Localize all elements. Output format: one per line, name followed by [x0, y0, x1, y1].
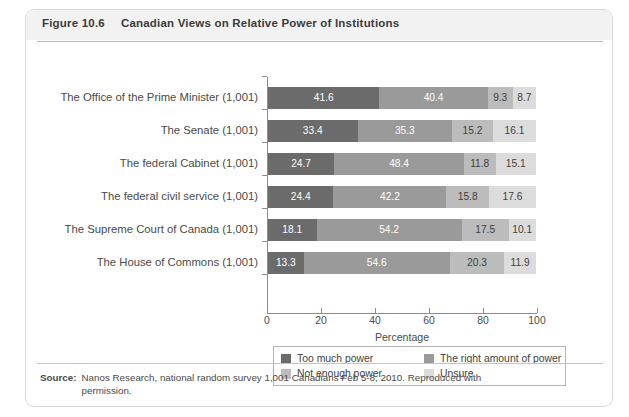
x-axis-tick-label: 60: [423, 315, 435, 326]
stacked-bar: 24.442.215.817.6: [268, 186, 536, 208]
bar-value-label: 17.6: [502, 191, 522, 202]
bar-value-label: 9.3: [493, 92, 507, 103]
source-note: Source: Nanos Research, national random …: [40, 371, 595, 397]
bar-value-label: 15.8: [458, 191, 478, 202]
x-axis-tick: [483, 308, 484, 313]
y-axis-tick: [262, 274, 267, 275]
figure-header: Figure 10.6 Canadian Views on Relative P…: [26, 10, 612, 40]
bar-row: 41.640.49.38.7: [268, 81, 536, 114]
stacked-bar: 18.154.217.510.1: [268, 219, 536, 241]
bar-segment: 24.4: [268, 186, 333, 208]
bar-segment: 20.3: [450, 252, 504, 274]
bar-segment: 18.1: [268, 219, 317, 241]
bar-value-label: 35.3: [395, 125, 415, 136]
bar-value-label: 24.7: [291, 158, 311, 169]
x-axis-tick-label: 0: [264, 315, 270, 326]
bar-row: 33.435.315.216.1: [268, 114, 536, 147]
bar-row: 13.354.620.311.9: [268, 246, 536, 279]
figure-number: Figure 10.6: [42, 17, 105, 29]
stacked-bar: 13.354.620.311.9: [268, 252, 536, 274]
bar-value-label: 11.8: [470, 158, 489, 169]
y-axis-tick: [262, 142, 267, 143]
y-axis-tick: [262, 76, 267, 77]
bar-segment: 17.6: [489, 186, 536, 208]
bar-value-label: 18.1: [282, 224, 302, 235]
y-axis-tick: [262, 175, 267, 176]
bar-segment: 35.3: [358, 120, 453, 142]
bar-value-label: 41.6: [314, 92, 334, 103]
bar-value-label: 33.4: [303, 125, 323, 136]
source-text: Nanos Research, national random survey 1…: [81, 371, 533, 397]
bar-value-label: 48.4: [389, 158, 409, 169]
x-axis-tick: [537, 308, 538, 313]
bar-segment: 16.1: [493, 120, 536, 142]
bar-row: 24.442.215.817.6: [268, 180, 536, 213]
bar-segment: 11.8: [464, 153, 496, 175]
stacked-bar: 33.435.315.216.1: [268, 120, 536, 142]
source-label: Source:: [40, 371, 76, 384]
legend-swatch-icon: [424, 354, 434, 364]
bar-value-label: 40.4: [424, 92, 444, 103]
category-axis-labels: The Office of the Prime Minister (1,001)…: [36, 81, 258, 279]
legend-swatch-icon: [281, 354, 291, 364]
bar-value-label: 42.2: [380, 191, 400, 202]
bar-value-label: 20.3: [467, 257, 487, 268]
category-label: The House of Commons (1,001): [36, 246, 258, 279]
x-axis-tick: [375, 308, 376, 313]
figure-header-text: Figure 10.6 Canadian Views on Relative P…: [42, 17, 399, 29]
category-label: The federal Cabinet (1,001): [36, 147, 258, 180]
y-axis-tick: [262, 241, 267, 242]
bar-segment: 41.6: [268, 87, 379, 109]
bar-value-label: 11.9: [511, 257, 530, 268]
bar-segment: 17.5: [462, 219, 509, 241]
y-axis-tick: [262, 109, 267, 110]
x-axis-tick: [321, 308, 322, 313]
bar-segment: 15.8: [446, 186, 488, 208]
bar-segment: 42.2: [333, 186, 446, 208]
bar-segment: 11.9: [504, 252, 536, 274]
bar-segment: 15.2: [452, 120, 493, 142]
bar-value-label: 15.2: [463, 125, 483, 136]
bar-segment: 54.6: [304, 252, 450, 274]
bar-segment: 9.3: [488, 87, 513, 109]
bar-value-label: 16.1: [504, 125, 524, 136]
header-divider: [37, 41, 603, 42]
source-divider: [37, 363, 603, 364]
category-label: The Senate (1,001): [36, 114, 258, 147]
bar-segment: 54.2: [317, 219, 462, 241]
x-axis-tick: [429, 308, 430, 313]
bar-segment: 24.7: [268, 153, 334, 175]
bar-segment: 13.3: [268, 252, 304, 274]
bars-container: 41.640.49.38.733.435.315.216.124.748.411…: [268, 81, 536, 279]
bar-segment: 40.4: [379, 87, 487, 109]
bar-row: 18.154.217.510.1: [268, 213, 536, 246]
bar-value-label: 8.7: [517, 92, 531, 103]
bar-segment: 48.4: [334, 153, 464, 175]
x-axis-title: Percentage: [267, 331, 537, 343]
x-axis-line: [267, 313, 537, 314]
bar-value-label: 10.1: [512, 224, 532, 235]
x-axis-tick-label: 40: [369, 315, 381, 326]
bar-value-label: 54.6: [367, 257, 387, 268]
category-label: The federal civil service (1,001): [36, 180, 258, 213]
bar-segment: 8.7: [513, 87, 536, 109]
bar-segment: 10.1: [509, 219, 536, 241]
x-axis-tick-label: 100: [528, 315, 545, 326]
bar-row: 24.748.411.815.1: [268, 147, 536, 180]
bar-value-label: 24.4: [291, 191, 311, 202]
bar-value-label: 13.3: [276, 257, 296, 268]
x-axis-tick: [267, 308, 268, 313]
y-axis-tick: [262, 208, 267, 209]
bar-value-label: 54.2: [379, 224, 399, 235]
bar-value-label: 15.1: [506, 158, 526, 169]
figure-title: Canadian Views on Relative Power of Inst…: [121, 17, 399, 29]
x-axis-tick-label: 20: [315, 315, 327, 326]
category-label: The Supreme Court of Canada (1,001): [36, 213, 258, 246]
stacked-bar: 24.748.411.815.1: [268, 153, 536, 175]
chart-plot-area: The Office of the Prime Minister (1,001)…: [26, 43, 612, 333]
bar-value-label: 17.5: [475, 224, 495, 235]
category-label: The Office of the Prime Minister (1,001): [36, 81, 258, 114]
figure-card: Figure 10.6 Canadian Views on Relative P…: [25, 9, 613, 407]
stacked-bar: 41.640.49.38.7: [268, 87, 536, 109]
bar-segment: 15.1: [496, 153, 536, 175]
